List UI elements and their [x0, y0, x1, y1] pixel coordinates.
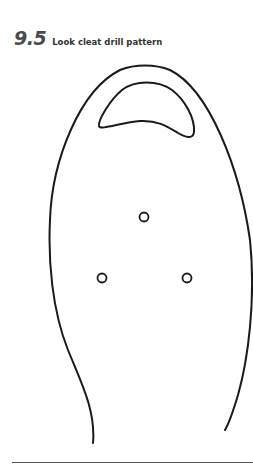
drill-pattern-figure: [0, 0, 253, 474]
toe-cutout: [99, 83, 194, 138]
drill-hole-top: [140, 213, 149, 222]
drill-hole-left: [98, 274, 107, 283]
drill-hole-right: [183, 274, 192, 283]
horizontal-rule: [12, 462, 253, 463]
